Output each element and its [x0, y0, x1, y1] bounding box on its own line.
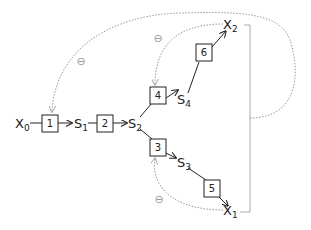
node-x2: X2 — [223, 17, 238, 34]
box-5-label: 5 — [209, 183, 215, 194]
feedback-upper — [155, 24, 223, 85]
svg-text:X1: X1 — [223, 203, 238, 220]
box-3: 3 — [150, 139, 166, 156]
box-6: 6 — [196, 44, 212, 61]
node-s1: S1 — [74, 116, 88, 133]
box-5: 5 — [204, 180, 220, 197]
feedback-lower-sign: ⊖ — [154, 193, 163, 206]
svg-text:S4: S4 — [177, 92, 191, 109]
svg-text:S1: S1 — [74, 116, 88, 133]
output-bracket — [240, 25, 250, 212]
box-1-label: 1 — [47, 118, 53, 129]
node-x0: X0 — [15, 116, 30, 133]
box-4-label: 4 — [155, 90, 161, 101]
feedback-upper-sign: ⊖ — [153, 32, 162, 45]
node-s3: S3 — [177, 155, 191, 172]
box-3-label: 3 — [155, 142, 161, 153]
svg-text:X0: X0 — [15, 116, 30, 133]
svg-text:S3: S3 — [177, 155, 191, 172]
box-2-label: 2 — [102, 118, 108, 129]
svg-text:X2: X2 — [223, 17, 238, 34]
node-s4: S4 — [177, 92, 191, 109]
box-2: 2 — [97, 115, 113, 132]
node-s2: S2 — [128, 116, 142, 133]
feedback-outer — [52, 13, 295, 118]
box-1: 1 — [42, 115, 58, 132]
box-4: 4 — [150, 87, 166, 104]
svg-text:S2: S2 — [128, 116, 142, 133]
box-6-label: 6 — [201, 47, 207, 58]
block-diagram: 1 2 4 6 3 5 X0 S1 S2 S4 X2 S3 X1 — [0, 0, 311, 230]
feedback-outer-sign: ⊖ — [76, 55, 85, 68]
node-x1: X1 — [223, 203, 238, 220]
